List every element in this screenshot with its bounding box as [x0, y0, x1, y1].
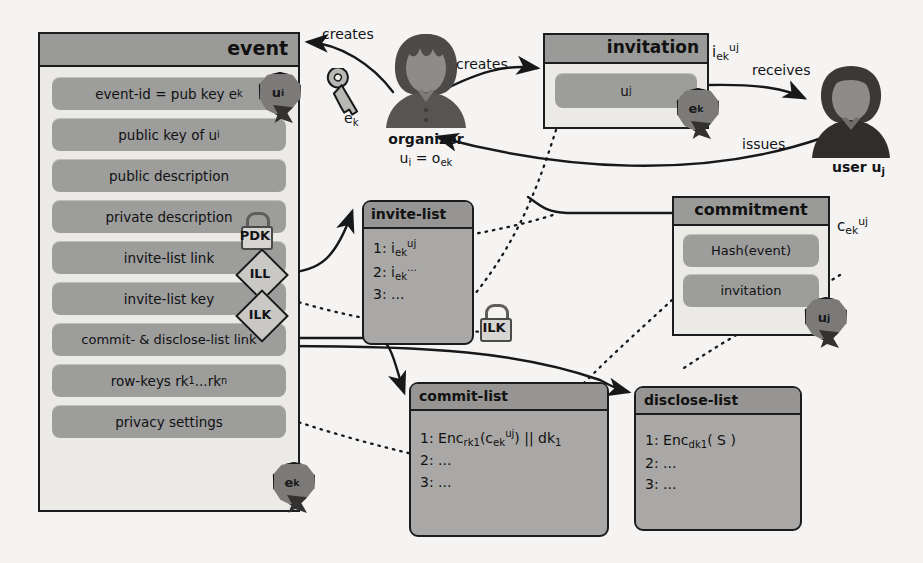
commit-row-1-fn: Enc	[438, 430, 463, 446]
commit-row-1-sub: rk1	[464, 437, 480, 448]
seal-badge-commitment: uj	[804, 297, 844, 337]
invite-list-row: 1: iekuj	[373, 236, 463, 260]
invite-row-1-sub: ek	[395, 247, 407, 258]
event-panel-title: event	[40, 34, 298, 67]
seal-event-id-sub: i	[281, 87, 284, 98]
edge-link-to-commitlist	[285, 338, 404, 392]
commit-list-row: 2: ...	[420, 450, 598, 472]
commitment-hash-label: Hash(event)	[711, 243, 791, 258]
seal-event-id-base: u	[272, 85, 281, 100]
privacy-settings-label: privacy settings	[115, 414, 223, 430]
invite-list-link-label: invite-list link	[124, 250, 215, 266]
public-description-field[interactable]: public description	[52, 159, 286, 192]
key-ek-sub: k	[353, 117, 359, 128]
invite-row-1-num: 1:	[373, 240, 391, 256]
public-key-field[interactable]: public key of ui	[52, 118, 286, 151]
seal-invitation-sub: k	[697, 103, 703, 114]
invite-row-2-num: 2:	[373, 264, 391, 280]
seal-event-bottom-sub: k	[293, 477, 299, 488]
invitation-id-sub: ek	[716, 50, 729, 63]
key-ek-base: e	[344, 110, 353, 126]
event-id-sub: k	[237, 88, 243, 99]
seal-invitation-text: ek	[676, 88, 716, 128]
invite-row-1-sup: uj	[407, 238, 416, 249]
commit-row-3-fn: ...	[438, 474, 451, 490]
commit-disclose-list-link-label: commit- & disclose-list link	[81, 332, 256, 347]
disclose-list-panel: disclose-list 1: Encdk1( S ) 2: ... 3: .…	[634, 386, 802, 531]
private-description-label: private description	[105, 209, 232, 225]
commit-list-rows: 1: Encrk1(cekuj) || dk1 2: ... 3: ...	[411, 411, 607, 501]
row-keys-label-2: ...rk	[195, 373, 221, 389]
seal-badge-event-id: ui	[258, 72, 298, 112]
commit-row-1-num: 1:	[420, 430, 438, 446]
organizer-id-eq: = o	[411, 150, 440, 166]
commit-list-row: 1: Encrk1(cekuj) || dk1	[420, 426, 598, 450]
commitment-id-sub: ek	[845, 224, 858, 237]
commit-list-panel: commit-list 1: Encrk1(cekuj) || dk1 2: .…	[409, 382, 609, 537]
disclose-row-1-sub: dk1	[689, 439, 708, 450]
user-name-text: user	[832, 159, 872, 175]
public-key-label: public key of u	[118, 127, 217, 143]
invite-row-3-num: 3:	[373, 286, 391, 302]
commitment-title: commitment	[674, 198, 828, 226]
invitation-user-base: u	[620, 83, 629, 99]
edge-receives	[710, 85, 804, 98]
event-id-label: event-id = pub key e	[95, 86, 237, 102]
disclose-list-row: 3: ...	[645, 474, 791, 496]
ilk-diamond-label: ILK	[236, 307, 284, 322]
invite-list-panel: invite-list 1: iekuj 2: iek... 3: ...	[362, 200, 474, 345]
diagram-canvas: event event-id = pub key ek public key o…	[0, 0, 923, 563]
edge-label-receives: receives	[752, 62, 810, 78]
commit-row-1-tail-sub: 1	[555, 437, 561, 448]
disclose-row-3-num: 3:	[645, 476, 663, 492]
commit-row-1-arg-sub: ek	[493, 437, 505, 448]
organizer-identity-label: ui = oek	[373, 150, 479, 168]
organizer-icon	[378, 28, 474, 132]
invite-list-row: 3: ...	[373, 284, 463, 306]
organizer-id-sub2: ek	[440, 157, 452, 168]
seal-badge-event-bottom: ek	[272, 462, 312, 502]
organizer-avatar	[378, 28, 474, 136]
public-key-sub: i	[217, 129, 220, 140]
invite-list-row: 2: iek...	[373, 260, 463, 284]
invite-list-key-label: invite-list key	[124, 291, 214, 307]
commit-row-1-tail: || dk	[520, 430, 555, 446]
key-ek-label: ek	[344, 110, 358, 128]
row-keys-field[interactable]: row-keys rk1...rkn	[52, 364, 286, 397]
disclose-row-2-fn: ...	[663, 455, 676, 471]
commitment-id-label: cekuj	[837, 215, 868, 237]
invitation-id-label: iekuj	[712, 41, 739, 63]
invite-list-rows: 1: iekuj 2: iek... 3: ...	[364, 229, 472, 313]
commitment-invitation-field[interactable]: invitation	[683, 274, 819, 307]
invitation-user-sub: j	[629, 85, 632, 96]
invite-row-3-base: ...	[391, 286, 404, 302]
commit-row-1-arg-sup: uj	[505, 428, 514, 439]
disclose-list-title: disclose-list	[636, 388, 800, 415]
disclose-row-3-fn: ...	[663, 476, 676, 492]
seal-event-bottom-base: e	[284, 475, 293, 490]
disclose-list-rows: 1: Encdk1( S ) 2: ... 3: ...	[636, 415, 800, 503]
commit-list-title: commit-list	[411, 384, 607, 411]
seal-event-id-text: ui	[258, 72, 298, 112]
public-description-label: public description	[109, 168, 229, 184]
padlock-ilk-icon: ILK	[479, 304, 509, 338]
invitation-title: invitation	[545, 35, 707, 64]
organizer-name-label: organizer	[373, 131, 479, 147]
seal-commitment-text: uj	[804, 297, 844, 337]
commitment-id-base: c	[837, 217, 845, 235]
padlock-pdk-label: PDK	[237, 228, 273, 243]
edge-label-creates-event: creates	[322, 26, 374, 42]
event-id-field[interactable]: event-id = pub key ek	[52, 77, 286, 110]
row-keys-sub-n: n	[221, 375, 227, 386]
commitment-hash-field[interactable]: Hash(event)	[683, 234, 819, 267]
disclose-list-row: 2: ...	[645, 453, 791, 475]
invite-list-title: invite-list	[364, 202, 472, 229]
padlock-pdk-icon: PDK	[240, 212, 270, 246]
disclose-row-1-fn: Enc	[663, 432, 688, 448]
user-name-label: user uj	[832, 159, 885, 177]
seal-invitation-base: e	[688, 101, 697, 116]
user-id-base: u	[872, 159, 882, 175]
commit-list-row: 3: ...	[420, 472, 598, 494]
privacy-settings-field[interactable]: privacy settings	[52, 405, 286, 438]
ill-diamond-label: ILL	[236, 266, 284, 281]
